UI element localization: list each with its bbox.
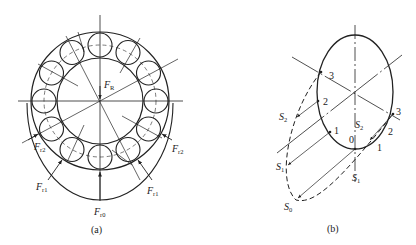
label-S2-left: S2 [279, 111, 287, 123]
projected-curve [286, 72, 393, 201]
label-Fr0: Fr0 [93, 206, 106, 218]
caption-a: (a) [91, 224, 102, 236]
point-3-left: 3 [329, 70, 334, 81]
orbit-points [317, 71, 395, 151]
b-axis-diagonal [277, 55, 402, 153]
label-S0: S0 [284, 201, 292, 213]
label-FR: FR [103, 79, 115, 91]
point-2-left: 2 [323, 96, 328, 107]
point-1-left: 1 [334, 125, 339, 136]
point-1-right: 1 [377, 142, 382, 153]
label-S1-left: S1 [276, 161, 284, 173]
label-S1-center: S1 [352, 172, 360, 184]
b-axis-13 [292, 57, 400, 120]
label-S2-center: S2 [355, 119, 363, 131]
label-Fr1-left: Fr1 [35, 181, 48, 193]
panel-a [18, 15, 183, 201]
bearing-diagram: FR Fr2 Fr2 Fr1 Fr1 Fr0 (a) 3 2 [0, 0, 416, 245]
label-Fr1-right: Fr1 [146, 185, 159, 197]
point-3-right: 3 [396, 106, 401, 117]
point-2-right: 2 [388, 126, 393, 137]
point-0: 0 [349, 134, 354, 145]
label-Fr2-right: Fr2 [171, 143, 184, 155]
caption-b: (b) [327, 223, 339, 235]
panel-b [277, 25, 402, 201]
label-Fr2-left: Fr2 [33, 141, 46, 153]
